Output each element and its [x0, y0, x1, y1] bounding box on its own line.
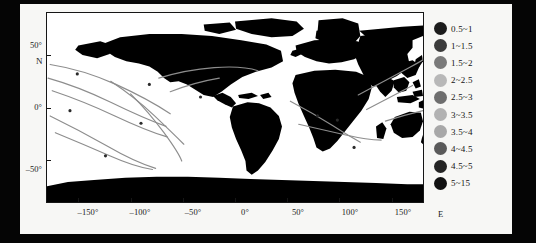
legend-swatch-icon — [434, 91, 447, 104]
y-tick-mark — [47, 160, 51, 161]
y-axis-unit-label: N — [36, 56, 43, 66]
legend-swatch-icon — [434, 125, 447, 138]
legend-item: 0.5~1 — [434, 20, 510, 37]
legend-swatch-icon — [434, 39, 447, 52]
legend-label: 1~1.5 — [451, 41, 473, 51]
x-tick-mark — [287, 198, 288, 202]
legend-item: 3~3.5 — [434, 106, 510, 123]
figure-panel: –150° –100° –50° 0° 50° 100° 150° E 50° … — [20, 4, 512, 234]
track-marker — [68, 109, 71, 112]
x-tick-mark — [235, 198, 236, 202]
track-marker — [353, 146, 356, 149]
y-tick-mark — [47, 55, 51, 56]
legend-label: 2.5~3 — [451, 92, 473, 102]
legend-label: 3~3.5 — [451, 110, 473, 120]
track-marker — [139, 122, 142, 125]
track-marker — [199, 95, 202, 98]
legend-item: 1.5~2 — [434, 54, 510, 71]
legend-swatch-icon — [434, 108, 447, 121]
y-tick-mark — [47, 108, 51, 109]
y-tick-label: –50° — [20, 164, 42, 174]
x-tick-label: –50° — [185, 207, 202, 217]
x-tick-label: –150° — [78, 207, 99, 217]
legend-swatch-icon — [434, 142, 447, 155]
x-tick-label: 150° — [395, 207, 412, 217]
legend-label: 5~15 — [451, 178, 470, 188]
world-map — [46, 12, 424, 203]
track-marker — [148, 83, 151, 86]
x-tick-mark — [131, 198, 132, 202]
legend-swatch-icon — [434, 177, 447, 190]
legend-swatch-icon — [434, 22, 447, 35]
x-tick-label: 100° — [342, 207, 359, 217]
track-marker — [316, 114, 319, 117]
legend-label: 4.5~5 — [451, 161, 473, 171]
legend-item: 4.5~5 — [434, 158, 510, 175]
legend-label: 4~4.5 — [451, 144, 473, 154]
legend-item: 2.5~3 — [434, 89, 510, 106]
legend-swatch-icon — [434, 74, 447, 87]
legend-item: 2~2.5 — [434, 72, 510, 89]
legend-item: 5~15 — [434, 175, 510, 192]
x-tick-mark — [183, 198, 184, 202]
y-tick-label: 50° — [20, 40, 42, 50]
legend: 0.5~1 1~1.5 1.5~2 2~2.5 2.5~3 3~3.5 3.5~… — [434, 20, 510, 192]
y-tick-label: 0° — [20, 102, 42, 112]
legend-label: 0.5~1 — [451, 24, 473, 34]
x-tick-mark — [392, 198, 393, 202]
track-marker — [104, 154, 107, 157]
track-marker — [76, 72, 79, 75]
x-tick-mark — [78, 198, 79, 202]
legend-item: 4~4.5 — [434, 140, 510, 157]
legend-swatch-icon — [434, 160, 447, 173]
legend-swatch-icon — [434, 56, 447, 69]
track-marker — [336, 119, 339, 122]
x-tick-mark — [339, 198, 340, 202]
legend-label: 1.5~2 — [451, 58, 473, 68]
legend-item: 3.5~4 — [434, 123, 510, 140]
x-tick-label: 50° — [292, 207, 304, 217]
legend-label: 3.5~4 — [451, 127, 473, 137]
legend-label: 2~2.5 — [451, 75, 473, 85]
x-tick-label: –100° — [130, 207, 151, 217]
x-axis-unit-label: E — [438, 209, 443, 219]
x-tick-label: 0° — [241, 207, 249, 217]
map-canvas — [47, 13, 423, 202]
legend-item: 1~1.5 — [434, 37, 510, 54]
